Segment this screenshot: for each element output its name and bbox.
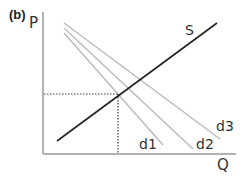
panel-label: (b) [9, 7, 26, 22]
supply-demand-diagram: (b) P Q S d1 d2 d3 [0, 0, 243, 178]
y-axis-label: P [29, 14, 38, 32]
demand-label-d2: d2 [196, 136, 214, 152]
demand-label-d3: d3 [216, 118, 234, 134]
x-axis-label: Q [217, 156, 229, 174]
demand-curve-d1 [64, 33, 163, 145]
supply-label: S [185, 22, 194, 38]
supply-curve [57, 23, 217, 141]
demand-label-d1: d1 [139, 136, 157, 152]
